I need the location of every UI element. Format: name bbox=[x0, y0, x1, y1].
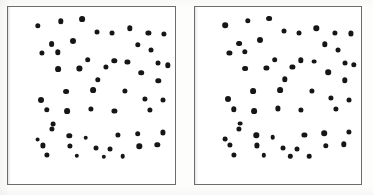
data-point bbox=[147, 107, 152, 112]
data-point bbox=[309, 88, 314, 93]
data-point bbox=[252, 108, 258, 114]
data-point bbox=[127, 26, 132, 31]
data-point bbox=[341, 142, 346, 147]
data-point bbox=[294, 146, 299, 151]
data-point bbox=[222, 137, 227, 142]
data-point bbox=[67, 143, 72, 148]
data-point bbox=[348, 31, 353, 36]
data-point bbox=[266, 16, 272, 22]
data-point bbox=[334, 107, 339, 112]
data-point bbox=[83, 135, 88, 140]
data-point bbox=[351, 62, 356, 67]
data-point bbox=[257, 37, 263, 43]
data-point bbox=[109, 31, 114, 36]
data-point bbox=[107, 147, 112, 152]
data-point bbox=[227, 142, 232, 147]
data-point bbox=[77, 66, 82, 71]
data-point bbox=[135, 42, 140, 47]
data-point bbox=[146, 30, 151, 35]
data-point bbox=[307, 154, 312, 159]
data-point bbox=[101, 155, 105, 159]
right-panel bbox=[194, 6, 362, 185]
data-point bbox=[160, 98, 165, 103]
data-point bbox=[160, 130, 165, 135]
data-point bbox=[63, 89, 69, 95]
data-point bbox=[321, 130, 327, 136]
data-point bbox=[282, 29, 287, 34]
data-point bbox=[329, 96, 334, 101]
data-point bbox=[79, 16, 85, 22]
data-point bbox=[231, 152, 236, 157]
data-point bbox=[280, 145, 285, 150]
data-point bbox=[55, 50, 60, 55]
data-point bbox=[65, 108, 71, 114]
data-point bbox=[290, 64, 295, 69]
data-point bbox=[227, 50, 232, 55]
data-point bbox=[312, 59, 317, 64]
data-point bbox=[298, 108, 303, 113]
data-point bbox=[277, 87, 283, 93]
data-point bbox=[103, 65, 108, 70]
data-point bbox=[270, 135, 275, 140]
data-point bbox=[325, 69, 331, 75]
data-point bbox=[242, 66, 248, 72]
data-point bbox=[342, 61, 347, 66]
left-panel-plot-area bbox=[8, 7, 175, 184]
data-point bbox=[35, 137, 40, 142]
right-panel-plot-area bbox=[195, 7, 361, 184]
data-point bbox=[75, 154, 79, 158]
data-point bbox=[332, 30, 337, 35]
data-point bbox=[314, 25, 319, 30]
data-point bbox=[125, 59, 130, 64]
data-point bbox=[322, 42, 327, 47]
data-point bbox=[115, 133, 120, 138]
figure-root bbox=[0, 0, 373, 195]
data-point bbox=[264, 65, 269, 70]
data-point bbox=[296, 30, 301, 35]
data-point bbox=[44, 107, 49, 112]
data-point bbox=[44, 152, 49, 157]
data-point bbox=[253, 133, 258, 138]
data-point bbox=[231, 106, 236, 111]
data-point bbox=[39, 51, 44, 56]
data-point bbox=[254, 143, 259, 148]
data-point bbox=[112, 108, 117, 113]
data-point bbox=[89, 106, 94, 111]
data-point bbox=[55, 66, 61, 72]
data-point bbox=[70, 38, 76, 44]
data-point bbox=[40, 143, 45, 148]
data-point bbox=[66, 133, 71, 138]
data-point bbox=[123, 89, 128, 94]
data-point bbox=[275, 106, 280, 111]
data-point bbox=[298, 58, 303, 63]
data-point bbox=[342, 78, 347, 83]
left-panel bbox=[7, 6, 176, 185]
data-point bbox=[245, 18, 250, 23]
data-point bbox=[142, 96, 147, 101]
data-point bbox=[288, 154, 292, 158]
data-point bbox=[58, 19, 63, 24]
data-point bbox=[302, 132, 307, 137]
data-point bbox=[222, 23, 228, 29]
data-point bbox=[112, 58, 117, 63]
data-point bbox=[155, 61, 160, 66]
data-point bbox=[346, 130, 351, 135]
data-point bbox=[236, 126, 241, 131]
data-point bbox=[49, 126, 54, 131]
data-point bbox=[162, 31, 167, 36]
data-point bbox=[242, 49, 247, 54]
data-point bbox=[90, 87, 96, 93]
data-point bbox=[155, 142, 160, 147]
data-point bbox=[346, 98, 351, 103]
data-point bbox=[236, 41, 242, 47]
data-point bbox=[135, 131, 141, 137]
data-point bbox=[49, 41, 55, 47]
data-point bbox=[323, 143, 328, 148]
data-point bbox=[38, 97, 44, 103]
data-point bbox=[95, 77, 100, 82]
data-point bbox=[262, 153, 266, 157]
data-point bbox=[95, 29, 100, 34]
data-point bbox=[35, 23, 40, 28]
data-point bbox=[93, 145, 98, 150]
data-point bbox=[138, 70, 144, 76]
